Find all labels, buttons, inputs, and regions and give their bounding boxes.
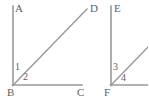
vertex-label-e: E <box>114 3 121 14</box>
angle-label-1: 1 <box>15 62 20 72</box>
diagram-canvas: A B C D 1 2 E F 3 4 <box>0 0 148 99</box>
vertex-label-a: A <box>15 3 23 14</box>
geometry-figure-svg <box>0 0 148 99</box>
vertex-label-b: B <box>7 87 14 98</box>
angle-label-3: 3 <box>113 62 118 72</box>
vertex-label-d: D <box>90 3 98 14</box>
angle-label-2: 2 <box>23 72 28 82</box>
vertex-label-c: C <box>77 87 84 98</box>
angle-label-4: 4 <box>121 73 126 83</box>
right-angle-figure <box>111 6 149 86</box>
vertex-label-f: F <box>104 87 110 98</box>
